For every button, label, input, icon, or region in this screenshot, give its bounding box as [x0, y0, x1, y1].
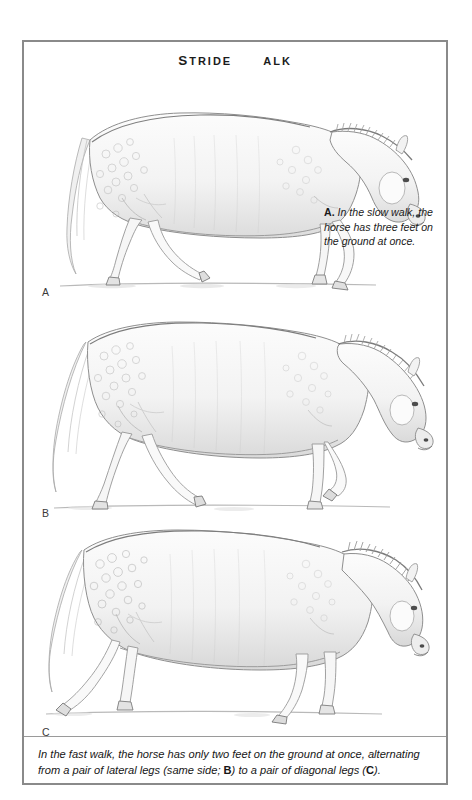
caption-bottom-bold-c: C — [366, 764, 374, 776]
horse-muzzle-b — [415, 428, 433, 449]
caption-bottom-segment-3: ). — [374, 764, 381, 776]
horse-drawing-c — [24, 518, 446, 738]
horse-drawing-b — [24, 298, 446, 518]
caption-a-lead: A. — [324, 206, 335, 218]
page-title: STRIDE ALK — [24, 53, 446, 68]
illustration-frame: STRIDE ALK — [22, 40, 448, 785]
title-part-0: S — [178, 53, 189, 68]
panel-a — [24, 78, 446, 298]
caption-bottom-bold-b: B — [224, 764, 232, 776]
panel-c — [24, 518, 446, 738]
horse-ear-a — [396, 136, 408, 154]
caption-a-text: In the slow walk, the horse has three fe… — [324, 206, 433, 247]
illustration-page: STRIDE ALK — [0, 0, 472, 800]
caption-a: A. In the slow walk, the horse has three… — [324, 205, 440, 249]
caption-divider — [24, 736, 446, 737]
title-part-5: ALK — [263, 55, 292, 67]
title-part-1: TRIDE — [189, 55, 232, 67]
horse-eye-a — [403, 178, 409, 182]
horse-eye-b — [412, 402, 418, 406]
horse-eye-c — [411, 606, 417, 610]
horse-drawing-a — [24, 78, 446, 298]
horse-hindleg-near-c — [120, 646, 138, 703]
horse-hindleg-near-a — [110, 218, 142, 279]
horse-ear-b — [408, 358, 420, 376]
caption-bottom: In the fast walk, the horse has only two… — [38, 746, 432, 778]
caption-bottom-segment-2: ) to a pair of diagonal legs ( — [232, 764, 366, 776]
horse-muzzle-c — [411, 634, 429, 655]
horse-hindleg-near-b — [96, 432, 132, 503]
panel-b — [24, 298, 446, 518]
panel-label-a: A — [42, 286, 50, 298]
